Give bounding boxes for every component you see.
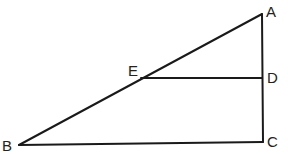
label-b: B xyxy=(2,137,12,154)
segment-bc xyxy=(19,142,263,145)
label-e: E xyxy=(128,62,138,79)
label-c: C xyxy=(267,133,278,150)
label-d: D xyxy=(267,69,278,86)
label-a: A xyxy=(266,3,276,20)
triangle-diagram: A B C D E xyxy=(0,0,288,154)
segment-ab xyxy=(19,14,262,145)
